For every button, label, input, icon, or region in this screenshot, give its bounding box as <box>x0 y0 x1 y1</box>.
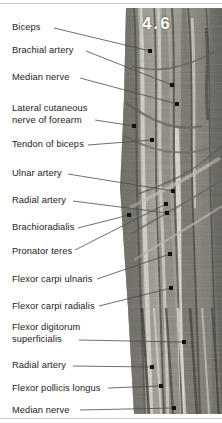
label-ulnar-artery: Ulnar artery <box>12 168 62 180</box>
figure-number: 4.6 <box>142 14 172 34</box>
label-flexor-carpi-ulnaris: Flexor carpi ulnaris <box>12 274 93 286</box>
label-flexor-carpi-radialis-line: Flexor carpi radialis <box>12 301 95 313</box>
label-flexor-digitorum-superficialis-line: Flexor digitorum <box>12 322 80 334</box>
label-radial-artery-upper: Radial artery <box>12 195 66 207</box>
label-brachial-artery: Brachial artery <box>12 45 73 57</box>
label-median-nerve-lower-line: Median nerve <box>12 405 70 417</box>
label-radial-artery-lower-line: Radial artery <box>12 360 66 372</box>
label-biceps: Biceps <box>12 22 41 34</box>
label-median-nerve-line: Median nerve <box>12 72 70 84</box>
label-median-nerve: Median nerve <box>12 72 70 84</box>
label-brachial-artery-line: Brachial artery <box>12 45 73 57</box>
label-brachioradialis-line: Brachioradialis <box>12 222 74 234</box>
specimen-illustration <box>118 8 222 414</box>
label-flexor-digitorum-superficialis-line: superficialis <box>12 334 80 346</box>
label-biceps-line: Biceps <box>12 22 41 34</box>
label-lateral-cutaneous-nerve-of-forearm-line: nerve of forearm <box>12 115 88 127</box>
label-flexor-carpi-radialis: Flexor carpi radialis <box>12 301 95 313</box>
label-lateral-cutaneous-nerve-of-forearm-line: Lateral cutaneous <box>12 103 88 115</box>
specimen-photograph <box>118 8 222 414</box>
label-pronator-teres-line: Pronator teres <box>12 246 72 258</box>
label-flexor-carpi-ulnaris-line: Flexor carpi ulnaris <box>12 274 93 286</box>
anatomy-figure: 4.6 BicepsBrachial arteryMedian nerveLat… <box>0 0 222 423</box>
label-flexor-digitorum-superficialis: Flexor digitorumsuperficialis <box>12 322 80 345</box>
label-radial-artery-lower: Radial artery <box>12 360 66 372</box>
bottom-divider-rule <box>0 418 222 419</box>
top-divider-rule <box>0 3 222 4</box>
label-median-nerve-lower: Median nerve <box>12 405 70 417</box>
label-flexor-pollicis-longus: Flexor pollicis longus <box>12 383 101 395</box>
label-flexor-pollicis-longus-line: Flexor pollicis longus <box>12 383 101 395</box>
label-radial-artery-upper-line: Radial artery <box>12 195 66 207</box>
label-ulnar-artery-line: Ulnar artery <box>12 168 62 180</box>
label-tendon-of-biceps-line: Tendon of biceps <box>12 139 84 151</box>
label-brachioradialis: Brachioradialis <box>12 222 74 234</box>
label-tendon-of-biceps: Tendon of biceps <box>12 139 84 151</box>
label-pronator-teres: Pronator teres <box>12 246 72 258</box>
label-lateral-cutaneous-nerve-of-forearm: Lateral cutaneousnerve of forearm <box>12 103 88 126</box>
